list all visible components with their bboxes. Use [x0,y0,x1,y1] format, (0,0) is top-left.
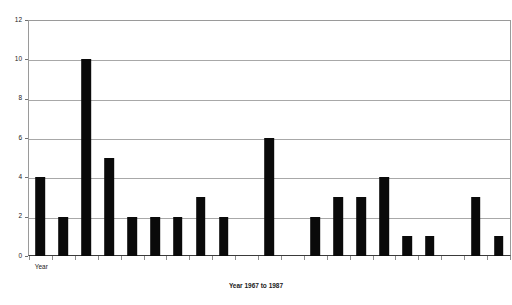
x-axis-ticks [29,256,510,262]
bar-slot [487,20,510,256]
bar-slot [373,20,396,256]
bar-slot [258,20,281,256]
x-axis-tick-mark [350,256,351,260]
x-axis-tick-mark [327,256,328,260]
x-axis-tick-mark [212,256,213,260]
bar[interactable] [104,158,114,256]
x-axis-tick-mark [373,256,374,260]
y-axis-tick-label: 4 [18,174,22,181]
bar[interactable] [471,197,481,256]
bar-slot [441,20,464,256]
bar[interactable] [402,236,412,256]
bar-slot [395,20,418,256]
bar[interactable] [127,217,137,256]
bar-slot [144,20,167,256]
y-axis-tick-mark [25,20,28,21]
x-axis-tick-mark [166,256,167,260]
bar-slot [52,20,75,256]
chart-title [0,0,512,2]
bar-slot [75,20,98,256]
x-axis-title: Year 1967 to 1987 [0,283,512,290]
x-axis-tick-mark [189,256,190,260]
bar-slot [166,20,189,256]
x-axis-tick-mark [510,256,511,260]
x-axis-tick-mark [487,256,488,260]
bar[interactable] [379,177,389,256]
x-axis-tick-mark [441,256,442,260]
x-axis-tick-mark [75,256,76,260]
x-axis-tick-mark [29,256,30,260]
bar[interactable] [265,138,275,256]
y-axis-tick-label: 10 [15,56,22,63]
bar[interactable] [196,197,206,256]
y-axis-tick-label: 12 [15,17,22,24]
y-axis-tick-label: 2 [18,213,22,220]
bar-slot [121,20,144,256]
x-axis-tick-mark [98,256,99,260]
y-axis-tick-mark [25,256,28,257]
y-axis-tick-label: 0 [18,253,22,260]
y-axis-tick-label: 6 [18,135,22,142]
bars-container [29,20,510,256]
x-axis-tick-mark [281,256,282,260]
x-axis-tick-mark [464,256,465,260]
bar-slot [235,20,258,256]
y-axis-tick-mark [25,177,28,178]
bar-chart: 024681012 Year Year 1967 to 1987 [0,0,512,305]
x-axis-tick-mark [418,256,419,260]
x-axis-tick-mark [258,256,259,260]
x-axis-tick-mark [304,256,305,260]
bar-slot [464,20,487,256]
y-axis-tick-mark [25,138,28,139]
y-axis-tick-mark [25,99,28,100]
bar[interactable] [173,217,183,256]
bar[interactable] [219,217,229,256]
y-axis-tick-mark [25,217,28,218]
bar[interactable] [333,197,343,256]
bar[interactable] [81,59,91,256]
bar[interactable] [150,217,160,256]
bar[interactable] [310,217,320,256]
x-axis-tick-mark [395,256,396,260]
x-axis-tick-mark [121,256,122,260]
y-axis: 024681012 [0,0,28,276]
bar[interactable] [356,197,366,256]
x-axis-category-label: Year [35,264,48,271]
bar[interactable] [494,236,504,256]
bar-slot [212,20,235,256]
bar-slot [29,20,52,256]
bar-slot [418,20,441,256]
bar-slot [98,20,121,256]
x-axis-tick-mark [144,256,145,260]
x-axis-tick-mark [235,256,236,260]
bar-slot [350,20,373,256]
bar-slot [281,20,304,256]
x-axis-tick-mark [52,256,53,260]
bar-slot [304,20,327,256]
y-axis-tick-label: 8 [18,95,22,102]
bar-slot [327,20,350,256]
bar[interactable] [36,177,46,256]
bar[interactable] [425,236,435,256]
y-axis-tick-mark [25,59,28,60]
bar-slot [189,20,212,256]
bar[interactable] [59,217,69,256]
